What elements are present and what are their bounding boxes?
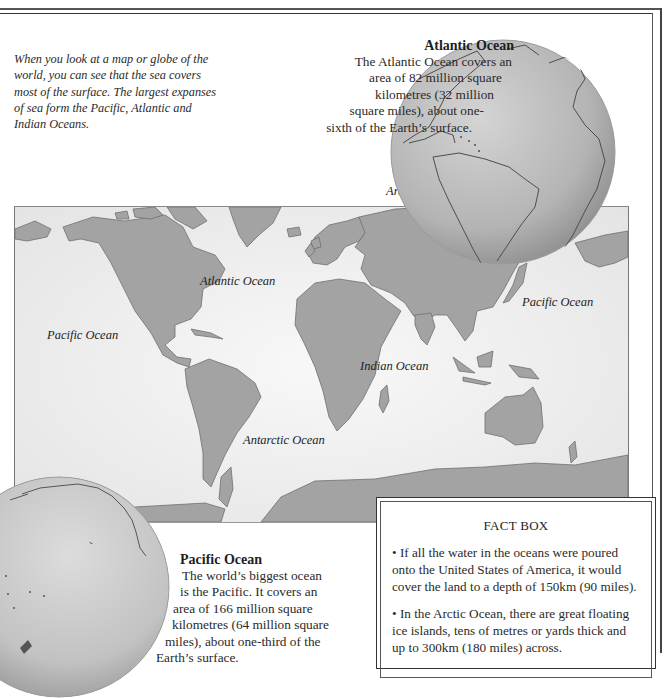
label-indian-ocean: Indian Ocean [360,359,428,374]
fact-box-title: FACT BOX [381,518,651,534]
atlantic-line: The Atlantic Ocean covers an [306,54,512,70]
pacific-body: The world’s biggest ocean is the Pacific… [160,568,370,666]
pacific-line: is the Pacific. It covers an [180,584,370,600]
fact-item: • In the Arctic Ocean, there are great f… [392,605,641,656]
top-rule-outer [0,8,660,10]
pacific-caption: Pacific Ocean The world’s biggest ocean … [160,552,370,666]
atlantic-line: square miles), about one- [306,103,484,119]
fact-item: • If all the water in the oceans were po… [392,544,641,595]
atlantic-line: area of 82 million square [306,70,502,86]
pacific-line: kilometres (64 million square [172,617,370,633]
label-pacific-ocean-east: Pacific Ocean [522,295,593,310]
right-rule-outer [660,8,662,653]
atlantic-caption: Atlantic Ocean The Atlantic Ocean covers… [306,38,520,136]
intro-paragraph: When you look at a map or globe of the w… [14,51,219,132]
atlantic-line: sixth of the Earth’s surface. [306,120,472,136]
top-rule-inner [0,13,652,14]
atlantic-title: Atlantic Ocean [306,38,514,54]
pacific-globe [0,476,170,698]
fact-box: FACT BOX • If all the water in the ocean… [376,497,656,669]
atlantic-body: The Atlantic Ocean covers an area of 82 … [306,54,520,136]
pacific-line: miles), about one-third of the [165,634,370,650]
fact-box-inner-border: FACT BOX • If all the water in the ocean… [380,501,652,678]
label-antarctic-ocean: Antarctic Ocean [243,433,325,448]
atlantic-line: kilometres (32 million [306,87,494,103]
pacific-line: The world’s biggest ocean [182,568,370,584]
pacific-title: Pacific Ocean [180,552,370,568]
label-pacific-ocean-west: Pacific Ocean [47,328,118,343]
pacific-line: area of 166 million square [173,601,370,617]
pacific-line: Earth’s surface. [156,650,370,666]
label-atlantic-ocean: Atlantic Ocean [200,274,275,289]
